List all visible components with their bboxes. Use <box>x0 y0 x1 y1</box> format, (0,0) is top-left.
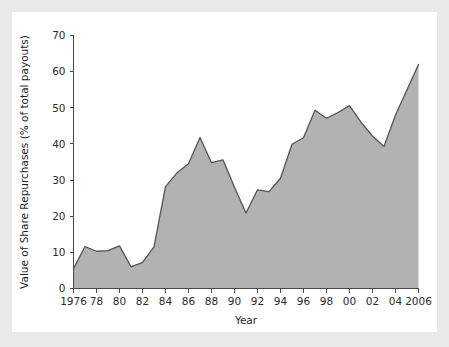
x-tick-label: 92 <box>251 295 264 307</box>
y-tick-label: 10 <box>52 246 65 258</box>
x-axis-title: Year <box>234 314 258 326</box>
share-repurchases-area-chart: 010203040506070 197678808284868890929496… <box>12 12 437 332</box>
x-tick-label: 04 <box>389 295 403 307</box>
y-tick-label: 30 <box>52 174 65 186</box>
x-tick-label: 90 <box>228 295 241 307</box>
x-tick-label: 94 <box>274 295 288 307</box>
x-tick-label: 78 <box>90 295 103 307</box>
x-tick-label: 84 <box>159 295 173 307</box>
y-tick-label: 60 <box>52 65 65 77</box>
figure-root: 010203040506070 197678808284868890929496… <box>0 0 449 347</box>
y-axis-title: Value of Share Repurchases (% of total p… <box>18 35 30 289</box>
x-tick-label: 96 <box>297 295 311 307</box>
y-tick-label: 40 <box>52 138 65 150</box>
x-tick-label: 2006 <box>405 295 432 307</box>
x-tick-label: 82 <box>136 295 149 307</box>
x-tick-label: 02 <box>366 295 379 307</box>
x-tick-label: 98 <box>320 295 333 307</box>
y-tick-label: 0 <box>59 282 66 294</box>
chart-card: 010203040506070 197678808284868890929496… <box>12 12 437 332</box>
x-tick-label: 86 <box>182 295 196 307</box>
x-tick-label: 80 <box>113 295 126 307</box>
x-tick-label: 88 <box>205 295 218 307</box>
x-tick-label: 1976 <box>60 295 87 307</box>
x-tick-label: 00 <box>343 295 356 307</box>
y-tick-label: 20 <box>52 210 65 222</box>
y-tick-label: 50 <box>52 102 65 114</box>
y-tick-label: 70 <box>52 29 65 41</box>
